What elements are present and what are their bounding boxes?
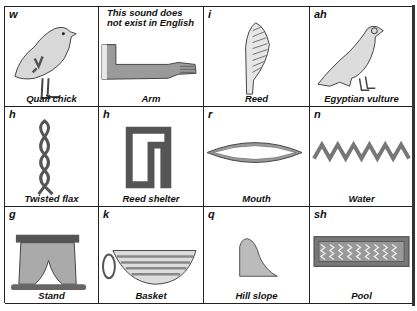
cell-basket: k Basket — [99, 207, 204, 304]
mouth-icon — [204, 107, 309, 206]
basket-icon — [99, 207, 203, 303]
glyph-name: Hill slope — [204, 290, 309, 301]
glyph-name: Basket — [99, 290, 203, 301]
glyph-name: Quail chick — [5, 93, 98, 104]
cell-quail-chick: w Quail chick — [5, 7, 99, 107]
sound-label: i — [208, 8, 211, 20]
reed-icon — [204, 7, 309, 106]
hieroglyph-chart: w Quail chick This sound does not exist … — [4, 6, 413, 303]
sound-label: g — [9, 208, 16, 220]
cell-hill-slope: q Hill slope — [204, 207, 310, 304]
glyph-name: Water — [310, 193, 413, 204]
cell-mouth: r Mouth — [204, 107, 310, 207]
cell-twisted-flax: h Twisted flax — [5, 107, 99, 207]
cell-water: n Water — [310, 107, 414, 207]
stand-icon — [5, 207, 98, 303]
sound-label: w — [9, 8, 18, 20]
reed-shelter-icon — [99, 107, 203, 206]
pool-icon — [310, 207, 413, 303]
note-line-2: not exist in English — [107, 18, 194, 28]
cell-stand: g Stand — [5, 207, 99, 304]
glyph-name: Twisted flax — [5, 193, 98, 204]
glyph-name: Stand — [5, 290, 98, 301]
quail-chick-icon — [5, 7, 98, 106]
glyph-name: Reed — [204, 93, 309, 104]
twisted-flax-icon — [5, 107, 98, 206]
sound-label: h — [103, 108, 110, 120]
glyph-name: Pool — [310, 290, 413, 301]
sound-label: k — [103, 208, 109, 220]
glyph-name: Reed shelter — [99, 193, 203, 204]
egyptian-vulture-icon — [310, 7, 413, 106]
sound-label: ah — [314, 8, 327, 20]
sound-label: sh — [314, 208, 327, 220]
glyph-name: Egyptian vulture — [310, 93, 413, 104]
sound-label: n — [314, 108, 321, 120]
cell-arm: This sound does not exist in English Arm — [99, 7, 204, 107]
cell-reed-shelter: h Reed shelter — [99, 107, 204, 207]
sound-label: r — [208, 108, 212, 120]
glyph-name: Mouth — [204, 193, 309, 204]
sound-label: q — [208, 208, 215, 220]
cell-egyptian-vulture: ah Egyptian vulture — [310, 7, 414, 107]
cell-pool: sh Pool — [310, 207, 414, 304]
water-icon — [310, 107, 413, 206]
cell-reed: i Reed — [204, 7, 310, 107]
glyph-name: Arm — [99, 93, 203, 104]
hill-slope-icon — [204, 207, 309, 303]
sound-label: h — [9, 108, 16, 120]
